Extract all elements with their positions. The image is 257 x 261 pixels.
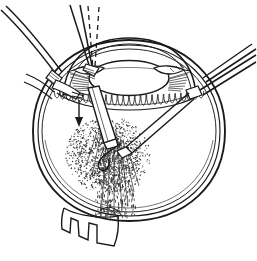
stipple-dot: [136, 168, 137, 169]
stipple-dot: [124, 172, 125, 173]
plume-tick: [133, 209, 134, 211]
stipple-dot: [75, 147, 76, 148]
stipple-dot: [90, 121, 91, 122]
stipple-dot: [84, 177, 86, 179]
plume-tick: [110, 158, 111, 160]
stipple-dot: [89, 165, 90, 166]
plume-tick: [116, 158, 117, 160]
stipple-dot: [76, 141, 78, 143]
plume-tick: [110, 153, 111, 155]
stipple-dot: [98, 178, 99, 179]
stipple-dot: [119, 158, 120, 159]
stipple-dot: [101, 168, 102, 169]
stipple-dot: [105, 187, 106, 188]
plume-tick: [132, 205, 133, 208]
plume-tick: [113, 154, 114, 156]
stipple-dot: [106, 173, 107, 174]
stipple-dot: [77, 148, 78, 149]
stipple-dot: [129, 175, 130, 176]
stipple-dot: [128, 122, 129, 123]
stipple-dot: [136, 142, 137, 143]
stipple-dot: [131, 165, 132, 166]
plume-tick: [110, 185, 111, 188]
plume-tick: [121, 201, 122, 204]
plume-tick: [106, 200, 107, 203]
plume-tick: [134, 214, 135, 216]
stipple-dot: [130, 145, 131, 146]
plume-tick: [124, 207, 125, 209]
plume-tick: [132, 197, 133, 199]
stipple-dot: [92, 182, 93, 183]
stipple-dot: [69, 158, 70, 159]
stipple-dot: [97, 138, 98, 139]
stipple-dot: [112, 191, 113, 192]
plume-tick: [97, 196, 98, 198]
stipple-dot: [137, 163, 138, 164]
stipple-dot: [65, 154, 66, 155]
stipple-dot: [134, 136, 135, 137]
stipple-dot: [140, 155, 141, 156]
plume-tick: [108, 212, 109, 215]
stipple-dot: [86, 142, 87, 143]
plume-tick: [102, 159, 103, 162]
plume-tick: [122, 215, 123, 218]
stipple-dot: [115, 125, 116, 126]
plume-tick: [101, 149, 102, 151]
stipple-dot: [122, 133, 123, 134]
plume-tick: [120, 186, 121, 188]
stipple-dot: [112, 163, 113, 164]
stipple-dot: [91, 159, 93, 161]
stipple-dot: [117, 179, 118, 180]
stipple-dot: [129, 140, 130, 141]
stipple-dot: [145, 145, 147, 147]
plume-tick: [118, 193, 119, 195]
stipple-dot: [98, 133, 99, 134]
plume-tick: [117, 190, 118, 193]
plume-tick: [114, 174, 115, 176]
stipple-dot: [142, 165, 143, 166]
plume-tick: [118, 138, 119, 140]
stipple-dot: [135, 127, 136, 128]
stipple-dot: [77, 136, 78, 137]
plume-tick: [121, 164, 122, 166]
stipple-dot: [121, 189, 122, 190]
stipple-dot: [112, 121, 113, 122]
stipple-dot: [73, 136, 75, 138]
plume-tick: [125, 177, 126, 179]
plume-tick: [122, 184, 123, 187]
stipple-dot: [85, 158, 86, 159]
stipple-dot: [139, 141, 140, 142]
stipple-dot: [78, 140, 79, 141]
stipple-dot: [73, 143, 74, 144]
stipple-dot: [95, 127, 96, 128]
plume-tick: [117, 157, 118, 160]
stipple-dot: [95, 130, 96, 131]
plume-tick: [119, 210, 120, 213]
stipple-dot: [131, 174, 132, 175]
stipple-dot: [146, 161, 147, 162]
plume-tick: [110, 160, 111, 162]
stipple-dot: [126, 172, 127, 173]
stipple-dot: [137, 155, 138, 156]
stipple-dot: [123, 120, 124, 121]
plume-tick: [97, 192, 98, 194]
stipple-dot: [81, 172, 82, 173]
stipple-dot: [124, 120, 125, 121]
stipple-dot: [79, 152, 81, 154]
plume-tick: [104, 186, 105, 188]
stipple-dot: [122, 180, 123, 181]
stipple-dot: [93, 130, 94, 131]
stipple-dot: [142, 155, 143, 156]
stipple-dot: [119, 131, 120, 132]
stipple-dot: [67, 162, 68, 163]
stipple-dot: [149, 160, 150, 161]
plume-tick: [100, 161, 101, 164]
stipple-dot: [82, 158, 83, 159]
stipple-dot: [71, 155, 72, 156]
stipple-dot: [135, 161, 136, 162]
stipple-dot: [84, 138, 85, 139]
stipple-dot: [122, 174, 123, 175]
stipple-dot: [77, 131, 78, 132]
plume-tick: [127, 196, 128, 199]
stipple-dot: [93, 128, 94, 129]
